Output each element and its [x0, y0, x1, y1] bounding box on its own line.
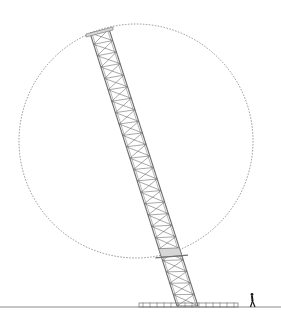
- human-scale-figure-icon: [251, 293, 256, 307]
- rotation-circle: [19, 24, 253, 258]
- base-platform: [139, 303, 238, 308]
- diagram-canvas: [0, 0, 281, 328]
- lattice-tower: [86, 27, 198, 306]
